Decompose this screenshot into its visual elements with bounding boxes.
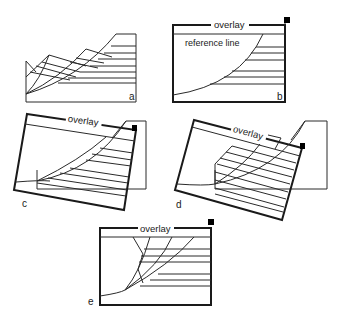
panel-e-overlay-label: overlay bbox=[140, 223, 171, 234]
panel-e: overlay e bbox=[88, 219, 214, 307]
panel-a-label: a bbox=[129, 91, 135, 102]
panel-b-marker bbox=[284, 17, 290, 23]
panel-e-label: e bbox=[88, 296, 94, 307]
panel-c: overlay c bbox=[14, 113, 146, 210]
panel-d-ref-line bbox=[177, 184, 215, 185]
panel-c-overlay-label: overlay bbox=[67, 113, 99, 128]
figure-canvas: a overlay reference line b overlay bbox=[0, 0, 343, 319]
panel-d: overlay d bbox=[175, 120, 327, 220]
panel-a-strata bbox=[58, 46, 136, 83]
panel-c-frame bbox=[14, 114, 136, 210]
panel-b-frame bbox=[173, 25, 285, 102]
panel-c-marker bbox=[132, 125, 137, 131]
panel-a: a bbox=[26, 34, 136, 102]
panel-c-main-curve bbox=[37, 121, 126, 181]
panel-b-reference-label: reference line bbox=[185, 38, 240, 48]
panel-b-overlay-label: overlay bbox=[214, 19, 245, 30]
panel-d-label: d bbox=[176, 199, 182, 210]
panel-e-frame bbox=[100, 228, 211, 305]
panel-e-strata bbox=[139, 249, 211, 286]
panel-b-strata bbox=[210, 47, 285, 84]
panel-c-label: c bbox=[22, 198, 27, 209]
panel-b: overlay reference line b bbox=[173, 17, 290, 102]
panel-a-diagonals bbox=[26, 49, 112, 80]
panel-d-strata bbox=[215, 146, 296, 212]
panel-e-ref-line bbox=[100, 290, 125, 296]
panel-c-ref-line bbox=[16, 181, 50, 182]
panel-e-marker bbox=[208, 219, 214, 225]
panel-d-inner-top bbox=[268, 135, 281, 149]
panel-d-marker bbox=[300, 143, 305, 149]
panel-b-label: b bbox=[277, 91, 283, 102]
